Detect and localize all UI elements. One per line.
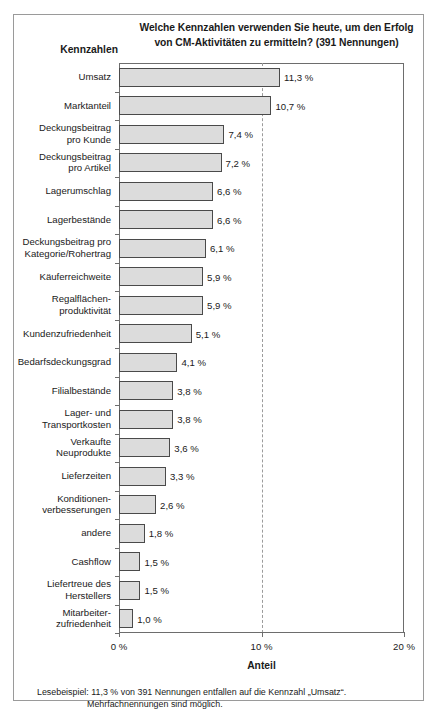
bar-value-label: 6,6 % [213, 214, 242, 225]
category-label: Deckungsbeitrag pro Kunde [0, 123, 111, 146]
y-tick [115, 348, 120, 349]
y-tick [115, 263, 120, 264]
footnote-line-2: Mehrfachnennungen sind möglich. [37, 698, 407, 710]
bar-value-label: 5,9 % [203, 300, 232, 311]
y-tick [115, 462, 120, 463]
y-tick [115, 491, 120, 492]
bar-value-label: 1,8 % [145, 528, 174, 539]
y-tick [115, 149, 120, 150]
bar [119, 495, 156, 514]
bar-value-label: 6,6 % [213, 186, 242, 197]
bar-row: Lieferzeiten3,3 % [119, 467, 404, 486]
bar-row: Mitarbeiter- zufriedenheit1,0 % [119, 609, 404, 628]
category-label: Regalflächen- produktivität [0, 294, 111, 317]
y-tick [115, 576, 120, 577]
y-tick [115, 434, 120, 435]
bar-row: andere1,8 % [119, 524, 404, 543]
bar [119, 125, 224, 144]
bar-value-label: 3,3 % [166, 471, 195, 482]
y-tick [115, 234, 120, 235]
bar [119, 552, 140, 571]
bar-value-label: 1,0 % [133, 613, 162, 624]
category-label: Filialbestände [0, 385, 111, 397]
y-tick [115, 120, 120, 121]
category-label: Verkaufte Neuprodukte [0, 436, 111, 459]
bar-row: Bedarfsdeckungsgrad4,1 % [119, 353, 404, 372]
chart-title: Welche Kennzahlen verwenden Sie heute, u… [134, 21, 419, 50]
bar [119, 524, 145, 543]
x-axis-title: Anteil [119, 660, 404, 671]
x-tick-20 [404, 632, 405, 637]
bar-value-label: 7,4 % [224, 129, 253, 140]
bar [119, 410, 173, 429]
category-label: Kundenzufriedenheit [0, 328, 111, 340]
chart-title-line-2: von CM-Aktivitäten zu ermitteln? (391 Ne… [134, 36, 419, 51]
bar [119, 381, 173, 400]
bar [119, 467, 166, 486]
plot-area: Umsatz11,3 %Marktanteil10,7 %Deckungsbei… [119, 63, 404, 633]
footnote: Lesebeispiel: 11,3 % von 391 Nennungen e… [37, 686, 407, 711]
y-tick [115, 548, 120, 549]
y-tick [115, 405, 120, 406]
y-tick [115, 206, 120, 207]
bar-row: Liefertreue des Herstellers1,5 % [119, 581, 404, 600]
category-label: Umsatz [0, 71, 111, 83]
y-tick [115, 605, 120, 606]
bar [119, 324, 192, 343]
category-label: Mitarbeiter- zufriedenheit [0, 607, 111, 630]
y-tick [115, 291, 120, 292]
bar-row: Marktanteil10,7 % [119, 96, 404, 115]
bar-value-label: 1,5 % [140, 556, 169, 567]
bar [119, 182, 213, 201]
bar-value-label: 11,3 % [280, 72, 313, 83]
gridline-10-percent [262, 63, 263, 633]
category-label: Liefertreue des Herstellers [0, 579, 111, 602]
bar-row: Lagerumschlag6,6 % [119, 182, 404, 201]
bar-row: Regalflächen- produktivität5,9 % [119, 296, 404, 315]
y-tick [115, 320, 120, 321]
bar [119, 267, 203, 286]
y-tick [115, 92, 120, 93]
bar-row: Cashflow1,5 % [119, 552, 404, 571]
bar-value-label: 3,8 % [173, 414, 202, 425]
category-label: Deckungsbeitrag pro Kategorie/Rohertrag [0, 237, 111, 260]
category-label: Lagerbestände [0, 214, 111, 226]
bar-value-label: 3,8 % [173, 385, 202, 396]
bar-row: Lagerbestände6,6 % [119, 210, 404, 229]
y-tick [115, 377, 120, 378]
bar [119, 609, 133, 628]
bar [119, 239, 206, 258]
x-tick-label-0: 0 % [111, 641, 128, 652]
bar-row: Verkaufte Neuprodukte3,6 % [119, 438, 404, 457]
y-tick [115, 633, 120, 634]
bar-value-label: 4,1 % [177, 357, 206, 368]
bar-value-label: 1,5 % [140, 585, 169, 596]
bar [119, 581, 140, 600]
bar-row: Umsatz11,3 % [119, 68, 404, 87]
bar-value-label: 6,1 % [206, 243, 235, 254]
category-label: Konditionen- verbesserungen [0, 493, 111, 516]
bar-row: Käuferreichweite5,9 % [119, 267, 404, 286]
y-axis-title: Kennzahlen [24, 44, 118, 55]
bar [119, 210, 213, 229]
x-tick-label-20: 20 % [393, 641, 415, 652]
x-tick-label-10: 10 % [251, 641, 273, 652]
category-label: Deckungsbeitrag pro Artikel [0, 151, 111, 174]
bar [119, 353, 177, 372]
y-tick [115, 519, 120, 520]
category-label: Lieferzeiten [0, 470, 111, 482]
category-label: Käuferreichweite [0, 271, 111, 283]
y-tick [115, 177, 120, 178]
footnote-line-1: Lesebeispiel: 11,3 % von 391 Nennungen e… [37, 687, 346, 697]
bar-value-label: 3,6 % [170, 442, 199, 453]
category-label: Bedarfsdeckungsgrad [0, 356, 111, 368]
bar-value-label: 7,2 % [222, 157, 251, 168]
bar-row: Deckungsbeitrag pro Kunde7,4 % [119, 125, 404, 144]
bar-row: Filialbestände3,8 % [119, 381, 404, 400]
category-label: Lager- und Transportkosten [0, 408, 111, 431]
bar [119, 96, 271, 115]
category-label: andere [0, 527, 111, 539]
bar-value-label: 5,9 % [203, 271, 232, 282]
bar-value-label: 5,1 % [192, 328, 221, 339]
chart-title-line-1: Welche Kennzahlen verwenden Sie heute, u… [134, 21, 419, 36]
